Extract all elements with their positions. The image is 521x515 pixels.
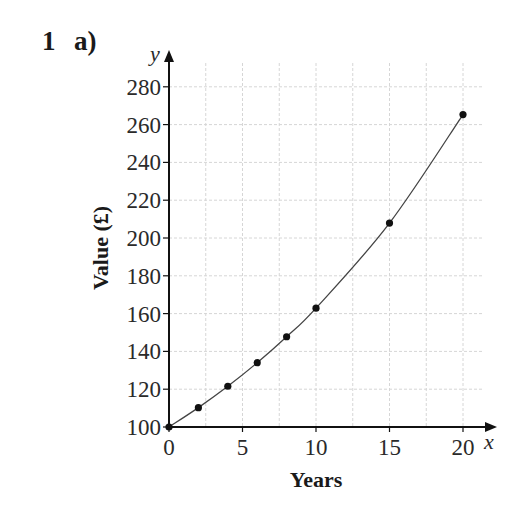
axes: [163, 50, 497, 432]
y-tick-label: 240: [127, 150, 162, 175]
data-point: [195, 404, 202, 411]
grid-lines: [169, 63, 483, 427]
x-tick-label: 20: [452, 435, 475, 460]
y-tick-label: 200: [127, 226, 162, 251]
data-point: [254, 359, 261, 366]
data-point: [459, 111, 466, 118]
x-tick-label: 5: [237, 435, 249, 460]
data-point: [386, 219, 393, 226]
data-point: [312, 305, 319, 312]
y-tick-label: 280: [127, 75, 162, 100]
y-tick-label: 260: [127, 113, 162, 138]
data-point: [283, 333, 290, 340]
x-axis-label: Years: [290, 467, 343, 492]
x-tick-label: 0: [163, 435, 175, 460]
x-tick-label: 10: [305, 435, 328, 460]
data-point: [224, 383, 231, 390]
y-tick-label: 160: [127, 302, 162, 327]
y-tick-label: 140: [127, 339, 162, 364]
y-axis-label: Value (£): [88, 206, 113, 290]
data-point: [165, 423, 172, 430]
y-axis-arrow-icon: [164, 50, 174, 62]
x-axis-variable: x: [483, 429, 494, 454]
y-tick-label: 220: [127, 188, 162, 213]
tick-labels: 05101520100120140160180200220240260280: [127, 75, 475, 460]
y-tick-label: 100: [127, 415, 162, 440]
y-tick-label: 120: [127, 377, 162, 402]
y-tick-label: 180: [127, 264, 162, 289]
x-tick-label: 15: [378, 435, 401, 460]
y-axis-variable: y: [148, 41, 160, 66]
chart: 05101520100120140160180200220240260280 Y…: [0, 0, 521, 515]
